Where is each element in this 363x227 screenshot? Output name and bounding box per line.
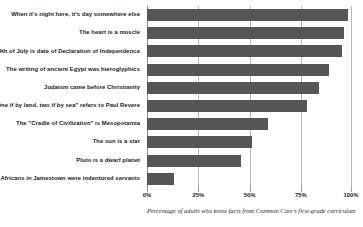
category-label: Judaism came before Christianity <box>0 79 144 97</box>
bar <box>147 9 348 21</box>
bar <box>147 45 342 57</box>
bar <box>147 118 268 130</box>
x-axis-caption: Percentage of adults who know facts from… <box>147 208 359 214</box>
bar-chart: When it's night here, it's day somewhere… <box>0 0 363 227</box>
bar-row <box>147 97 352 115</box>
category-label: When it's night here, it's day somewhere… <box>0 6 144 24</box>
bar-row <box>147 115 352 133</box>
bar-row <box>147 152 352 170</box>
tick-label-75: 75% <box>295 193 307 199</box>
plot-area <box>147 6 352 188</box>
tick-label-0: 0% <box>143 193 151 199</box>
category-label: "One if by land, two if by sea" refers t… <box>0 97 144 115</box>
bar-row <box>147 133 352 151</box>
category-label: The sun is a star <box>0 133 144 151</box>
bar <box>147 100 307 112</box>
bar <box>147 155 241 167</box>
bar <box>147 173 174 185</box>
bar-row <box>147 42 352 60</box>
category-label: The heart is a muscle <box>0 24 144 42</box>
tick-label-100: 100% <box>344 193 359 199</box>
category-label: Pluto is a dwarf planet <box>0 152 144 170</box>
category-label: 4th of July is date of Declaration of In… <box>0 42 144 60</box>
category-axis-labels: When it's night here, it's day somewhere… <box>0 6 144 188</box>
bar-row <box>147 24 352 42</box>
bar <box>147 27 344 39</box>
tick-label-25: 25% <box>192 193 204 199</box>
bar <box>147 64 329 76</box>
category-label: Africans in Jamestown were indentured se… <box>0 170 144 188</box>
bar-row <box>147 6 352 24</box>
bar-rows <box>147 6 352 188</box>
bar-row <box>147 79 352 97</box>
category-label: The writing of ancient Egypt was hierogl… <box>0 61 144 79</box>
category-label: The "Cradle of Civilization" is Mesopota… <box>0 115 144 133</box>
bar <box>147 82 319 94</box>
bar <box>147 136 252 148</box>
tick-label-50: 50% <box>244 193 256 199</box>
bar-row <box>147 170 352 188</box>
bar-row <box>147 61 352 79</box>
x-axis: 0% 25% 50% 75% 100% <box>147 188 352 202</box>
